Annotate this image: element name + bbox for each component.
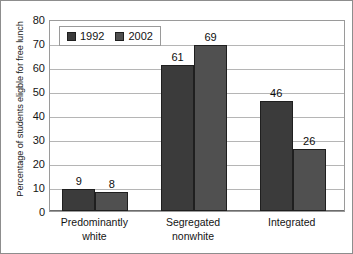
plot-area: 9861694626 19922002 xyxy=(49,20,345,212)
bar-value-label: 46 xyxy=(254,87,299,99)
y-axis-tick-label: 70 xyxy=(19,38,45,51)
y-axis-tick-label: 10 xyxy=(19,182,45,195)
y-axis-tick-labels: 01020304050607080 xyxy=(19,13,45,217)
bar-1992-3 xyxy=(260,101,293,211)
legend-label: 2002 xyxy=(128,30,152,42)
x-axis-category-labels: PredominantlywhiteSegregatednonwhiteInte… xyxy=(49,215,345,251)
bar-chart-figure: Percentage of students eligble for free … xyxy=(0,0,353,254)
bar-value-label: 8 xyxy=(89,178,134,190)
x-axis-category-label-line: Integrated xyxy=(242,215,341,229)
x-axis-category-label: Integrated xyxy=(242,215,341,229)
bar-value-label: 26 xyxy=(287,135,332,147)
bar-2002-2 xyxy=(194,45,227,211)
bar-1992-2 xyxy=(161,65,194,211)
bar-1992-1 xyxy=(62,189,95,211)
y-axis-tick-label: 20 xyxy=(19,158,45,171)
x-axis-category-label-line: white xyxy=(45,229,144,243)
y-axis-tick-label: 80 xyxy=(19,14,45,27)
x-axis-category-label-line: Predominantly xyxy=(45,215,144,229)
legend: 19922002 xyxy=(59,26,161,46)
bar-2002-3 xyxy=(293,149,326,211)
legend-swatch-2002 xyxy=(115,32,124,41)
x-axis-category-label: Segregatednonwhite xyxy=(144,215,243,243)
y-axis-tick-label: 40 xyxy=(19,110,45,123)
x-axis-category-label-line: Segregated xyxy=(144,215,243,229)
bars-layer: 9861694626 xyxy=(50,21,344,211)
x-axis-category-label-line: nonwhite xyxy=(144,229,243,243)
legend-entry-2002: 2002 xyxy=(115,30,152,42)
y-axis-tick-label: 60 xyxy=(19,62,45,75)
y-axis-tick-label: 30 xyxy=(19,134,45,147)
y-axis-tick-label: 50 xyxy=(19,86,45,99)
legend-swatch-1992 xyxy=(67,32,76,41)
x-axis-category-label: Predominantlywhite xyxy=(45,215,144,243)
bar-value-label: 69 xyxy=(188,31,233,43)
bar-2002-1 xyxy=(95,192,128,211)
y-axis-tick-label: 0 xyxy=(19,206,45,219)
legend-entry-1992: 1992 xyxy=(67,30,104,42)
legend-label: 1992 xyxy=(80,30,104,42)
